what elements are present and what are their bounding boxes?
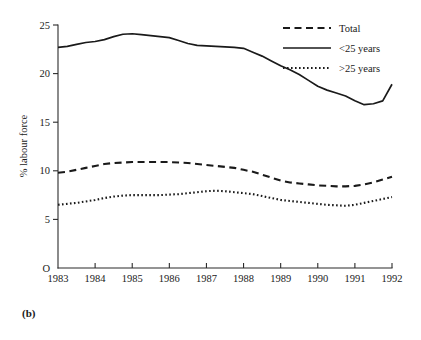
x-tick-label: 1985 bbox=[122, 273, 143, 284]
line-chart: O510152025 19831984198519861987198819891… bbox=[0, 0, 421, 340]
y-tick-label: O bbox=[42, 263, 50, 274]
x-tick-label: 1989 bbox=[270, 273, 291, 284]
x-tick-label: 1984 bbox=[85, 273, 107, 284]
legend-label-1: Total bbox=[339, 23, 361, 34]
panel-label: (b) bbox=[22, 307, 36, 320]
series-line-total bbox=[58, 162, 392, 186]
y-axis-ticks: O510152025 bbox=[40, 20, 59, 274]
x-axis-ticks: 1983198419851986198719881989199019911992 bbox=[48, 263, 403, 284]
y-tick-label: 10 bbox=[40, 165, 51, 176]
chart-axes bbox=[58, 25, 392, 268]
legend-label-3: >25 years bbox=[339, 63, 380, 74]
series-layer bbox=[58, 34, 392, 206]
x-tick-label: 1990 bbox=[307, 273, 328, 284]
chart-legend: Total<25 years>25 years bbox=[283, 23, 380, 74]
legend-label-2: <25 years bbox=[339, 43, 380, 54]
y-tick-label: 25 bbox=[40, 20, 51, 31]
x-tick-label: 1987 bbox=[196, 273, 217, 284]
y-tick-label: 20 bbox=[40, 68, 51, 79]
x-tick-label: 1986 bbox=[159, 273, 180, 284]
y-tick-label: 15 bbox=[40, 117, 51, 128]
figure-panel: O510152025 19831984198519861987198819891… bbox=[0, 0, 421, 340]
series-line-25-years bbox=[58, 191, 392, 206]
x-tick-label: 1992 bbox=[382, 273, 403, 284]
x-tick-label: 1988 bbox=[233, 273, 254, 284]
x-tick-label: 1991 bbox=[344, 273, 365, 284]
y-axis-title: % labour force bbox=[18, 114, 29, 177]
y-tick-label: 5 bbox=[45, 214, 50, 225]
x-tick-label: 1983 bbox=[48, 273, 69, 284]
